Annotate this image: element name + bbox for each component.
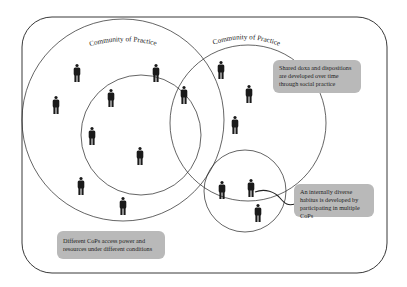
callout-shared-doxa: Shared doxa and dispositions are develop… (273, 60, 361, 93)
person-icon (246, 85, 253, 103)
person-icon (74, 64, 81, 82)
small-overlap-circle (204, 150, 286, 232)
person-icon (120, 197, 127, 215)
callout-power-resources: Different CoPs access power and resource… (57, 231, 165, 259)
people (53, 61, 262, 222)
person-icon (78, 177, 85, 195)
person-icon (181, 86, 188, 104)
person-icon (255, 204, 262, 222)
person-icon (89, 127, 96, 145)
person-icon (248, 179, 255, 197)
person-icon (218, 61, 225, 79)
person-icon (53, 96, 60, 114)
community-label-right: Community of Practice (212, 33, 282, 47)
left-community-circle (22, 19, 224, 221)
person-icon (232, 116, 239, 134)
person-icon (137, 147, 144, 165)
person-icon (153, 64, 160, 82)
callout-internal-habitus: An internally diverse habitus is develop… (294, 184, 374, 217)
connector-line (255, 190, 295, 204)
person-icon (108, 89, 115, 107)
community-label-left: Community of Practice (88, 35, 157, 48)
